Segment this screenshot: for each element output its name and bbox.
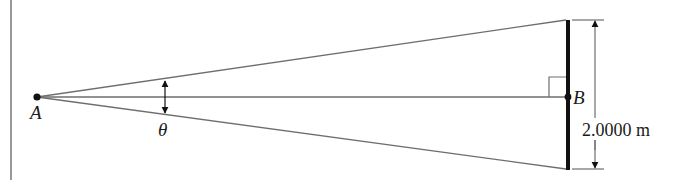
- point-a-dot: [33, 93, 40, 100]
- upper-sight-line: [37, 20, 566, 97]
- angle-theta-label: θ: [158, 120, 167, 139]
- right-angle-marker: [549, 77, 566, 97]
- point-b-dot: [565, 94, 572, 101]
- rod-length-label: 2.0000 m: [581, 121, 651, 139]
- lower-sight-line: [37, 97, 566, 169]
- point-a-label: A: [30, 103, 42, 122]
- point-b-label: B: [573, 88, 585, 107]
